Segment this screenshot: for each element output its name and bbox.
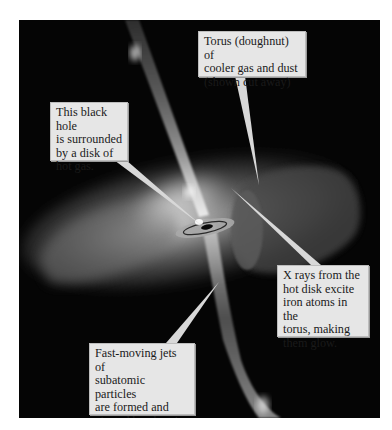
jet-knot — [257, 396, 269, 414]
callout-xrays: X rays from the hot disk excite iron ato… — [277, 265, 369, 337]
core-flare — [195, 219, 203, 225]
jet-knot — [130, 45, 140, 61]
agn-illustration — [19, 20, 380, 418]
callout-jets: Fast-moving jets of subatomic particles … — [89, 343, 195, 415]
illustration-frame: This black hole is surrounded by a disk … — [19, 20, 380, 418]
callout-black-hole: This black hole is surrounded by a disk … — [50, 102, 128, 161]
pointer-jets — [166, 282, 219, 343]
jet-knot — [184, 186, 194, 198]
callout-torus: Torus (doughnut) of cooler gas and dust … — [198, 31, 306, 77]
